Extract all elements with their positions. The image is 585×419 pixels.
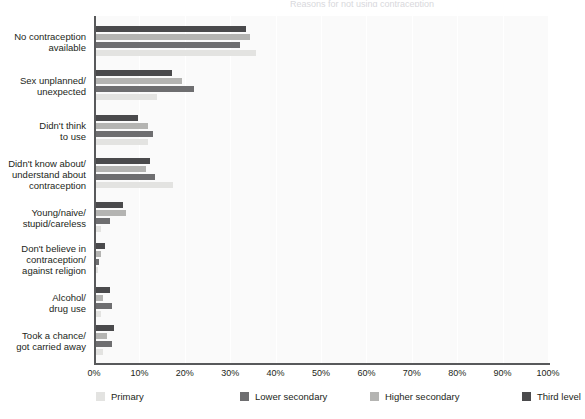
category-label-line: Didn't think — [0, 120, 86, 131]
bar — [96, 202, 123, 208]
category-label-line: No contraception — [0, 31, 86, 42]
gridline — [276, 16, 277, 363]
category-label: No contraceptionavailable — [0, 31, 86, 53]
x-axis-tick-label: 10% — [119, 368, 159, 378]
bar — [96, 311, 101, 317]
bar-group — [96, 26, 256, 58]
gridline — [503, 16, 504, 363]
category-label-line: Don't believe in — [0, 243, 86, 254]
x-axis-tick-label: 100% — [528, 368, 568, 378]
gridline — [230, 16, 231, 363]
x-axis-tick-label: 70% — [392, 368, 432, 378]
bar — [96, 123, 148, 129]
bar-group — [96, 202, 126, 234]
bar — [96, 325, 114, 331]
bar — [96, 267, 98, 273]
bar-group — [96, 243, 105, 275]
legend-item[interactable]: Primary — [96, 391, 144, 402]
bar — [96, 86, 194, 92]
x-axis-tick-label: 50% — [301, 368, 341, 378]
category-label-line: stupid/careless — [0, 218, 86, 229]
bar — [96, 182, 173, 188]
legend-swatch-icon — [240, 392, 249, 401]
bar-group — [96, 115, 153, 147]
bar — [96, 349, 103, 355]
category-label-line: got carried away — [0, 341, 86, 352]
category-label-line: Took a chance/ — [0, 330, 86, 341]
gridline — [321, 16, 322, 363]
legend-item[interactable]: Third level — [522, 391, 581, 402]
bar — [96, 251, 101, 257]
category-label-line: contraception — [0, 180, 86, 191]
bar — [96, 94, 157, 100]
category-label-line: understand about — [0, 169, 86, 180]
bar-group — [96, 158, 173, 190]
category-label: Don't believe incontraception/against re… — [0, 243, 86, 276]
x-axis-line — [94, 363, 550, 365]
category-label: Took a chance/got carried away — [0, 330, 86, 352]
category-label-line: against religion — [0, 265, 86, 276]
bar — [96, 243, 105, 249]
bar — [96, 303, 112, 309]
legend-item[interactable]: Higher secondary — [370, 391, 459, 402]
x-axis-tick-label: 60% — [346, 368, 386, 378]
bar — [96, 210, 126, 216]
bar — [96, 295, 103, 301]
bar — [96, 34, 250, 40]
bar — [96, 166, 146, 172]
bar — [96, 259, 99, 265]
category-label-line: Sex unplanned/ — [0, 75, 86, 86]
bar — [96, 131, 153, 137]
legend-item[interactable]: Lower secondary — [240, 391, 327, 402]
bar — [96, 226, 101, 232]
legend-label: Third level — [537, 391, 581, 402]
bar — [96, 341, 112, 347]
bar — [96, 139, 148, 145]
category-label-line: Young/naive/ — [0, 207, 86, 218]
gridline — [185, 16, 186, 363]
bar — [96, 42, 240, 48]
legend-swatch-icon — [370, 392, 379, 401]
legend-label: Higher secondary — [385, 391, 459, 402]
bar-group — [96, 325, 114, 357]
legend-label: Primary — [111, 391, 144, 402]
x-axis-tick-label: 40% — [256, 368, 296, 378]
bar — [96, 287, 110, 293]
category-label-line: to use — [0, 131, 86, 142]
bar — [96, 115, 138, 121]
legend: PrimaryLower secondaryHigher secondaryTh… — [96, 391, 556, 407]
bar — [96, 174, 155, 180]
x-axis-tick-label: 90% — [483, 368, 523, 378]
bar-group — [96, 287, 112, 319]
category-label-line: drug use — [0, 303, 86, 314]
legend-label: Lower secondary — [255, 391, 327, 402]
gridline — [366, 16, 367, 363]
category-label: Sex unplanned/unexpected — [0, 75, 86, 97]
gridline — [548, 16, 549, 363]
gridline — [457, 16, 458, 363]
bar — [96, 158, 150, 164]
category-label-line: unexpected — [0, 86, 86, 97]
bar — [96, 333, 107, 339]
bar — [96, 50, 256, 56]
bar — [96, 70, 172, 76]
category-label: Young/naive/stupid/careless — [0, 207, 86, 229]
legend-swatch-icon — [96, 392, 105, 401]
x-axis-tick-label: 80% — [437, 368, 477, 378]
x-axis-tick-label: 0% — [74, 368, 114, 378]
bar — [96, 218, 110, 224]
x-axis-tick-label: 20% — [165, 368, 205, 378]
bar-chart: Reasons for not using contraception No c… — [0, 0, 585, 419]
category-label: Didn't thinkto use — [0, 120, 86, 142]
gridline — [412, 16, 413, 363]
category-label-line: contraception/ — [0, 254, 86, 265]
category-label-line: Didn't know about/ — [0, 158, 86, 169]
category-label: Didn't know about/understand aboutcontra… — [0, 158, 86, 191]
category-label-line: Alcohol/ — [0, 292, 86, 303]
bar-group — [96, 70, 194, 102]
category-label-line: available — [0, 42, 86, 53]
bar — [96, 26, 246, 32]
x-axis-tick-label: 30% — [210, 368, 250, 378]
category-label: Alcohol/drug use — [0, 292, 86, 314]
bar — [96, 78, 182, 84]
